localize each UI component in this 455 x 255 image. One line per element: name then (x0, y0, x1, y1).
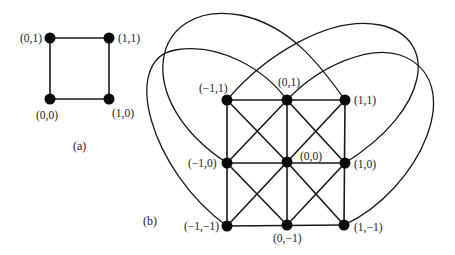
node-a-0-0 (45, 94, 56, 105)
node-b-1-1 (340, 95, 351, 106)
graph-diagram: (0,1) (1,1) (0,0) (1,0) (a) (0, 0, 455, 255)
caption-a: (a) (73, 139, 86, 153)
node-label: (0,1) (20, 32, 42, 45)
node-a-0-1 (45, 33, 56, 44)
node-b-m1-0 (222, 158, 233, 169)
node-label: (−1,0) (188, 157, 217, 170)
node-a-1-0 (104, 94, 115, 105)
node-b-1-m1 (339, 220, 350, 231)
panel-a: (0,1) (1,1) (0,0) (1,0) (a) (20, 32, 140, 153)
curve-edge (227, 23, 418, 163)
caption-b: (b) (143, 214, 157, 228)
node-label: (0,1) (278, 76, 300, 89)
node-label: (1,1) (118, 32, 140, 45)
node-b-0-1 (282, 95, 293, 106)
node-label: (1,1) (354, 94, 376, 107)
node-label: (0,−1) (273, 232, 302, 245)
curve-edge (163, 13, 345, 163)
curve-edge (147, 49, 287, 226)
node-b-m1-1 (222, 95, 233, 106)
node-b-m1-m1 (222, 221, 233, 232)
node-b-1-0 (340, 158, 351, 169)
node-b-0-m1 (282, 220, 293, 231)
node-label: (0,0) (36, 109, 58, 122)
node-label: (1,0) (112, 107, 134, 120)
node-label: (1,0) (354, 158, 376, 171)
node-label: (1,−1) (354, 221, 383, 234)
node-label: (0,0) (300, 150, 322, 163)
panel-b: (−1,1) (0,1) (1,1) (−1,0) (0,0) (1,0) (−… (143, 13, 433, 245)
node-a-1-1 (104, 33, 115, 44)
node-b-0-0 (282, 157, 293, 168)
node-label: (−1,1) (199, 82, 228, 95)
node-label: (−1,−1) (184, 220, 219, 233)
